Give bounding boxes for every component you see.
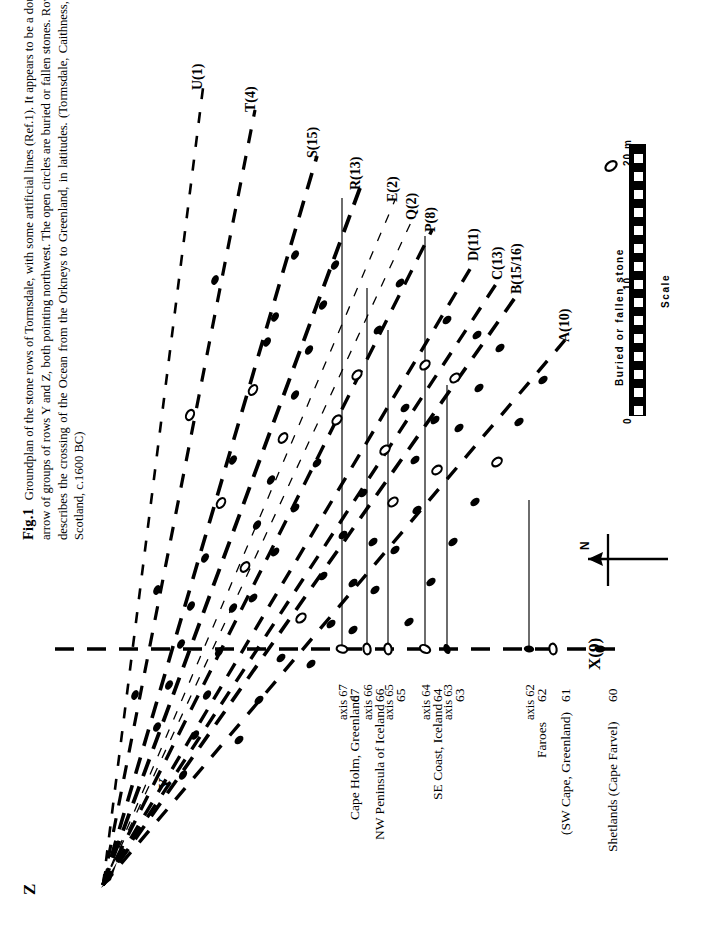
row-lines (103, 88, 565, 885)
figure-caption-text: Groundplan of the stone rows of Tormsdal… (22, 0, 86, 540)
latitude-site-62: Faroes (534, 722, 550, 758)
row-label-T: T(4) (243, 86, 259, 112)
group-label-Y: Y (155, 778, 175, 790)
group-label-Z: Z (20, 884, 40, 895)
row-label-E: E(2) (385, 176, 401, 202)
latitude-site-61: (SW Cape, Greenland) (558, 712, 574, 835)
latitude-site-66: NW Peninsula of Iceland (372, 704, 388, 840)
row-label-R: R(13) (348, 157, 364, 190)
groundplan-drawing: U(1) T(4) S(15) R(13) E(2) Q(2) P(8) D(1… (95, 30, 615, 920)
row-label-C: C(13) (490, 247, 506, 280)
row-label-Q: Q(2) (404, 193, 420, 220)
latitude-number-64: 64 (430, 689, 446, 703)
scale-title: Scale (660, 274, 671, 308)
scale-value-start: 0 (622, 417, 633, 424)
row-label-S: S(15) (305, 127, 321, 158)
latitude-site-64: SE Coast, Iceland (430, 704, 446, 800)
stone-markers (130, 249, 550, 944)
latitude-number-62: 62 (534, 689, 550, 703)
row-label-A: A(10) (557, 309, 573, 342)
compass-icon (572, 528, 682, 608)
latitude-number-65: 65 (393, 689, 409, 703)
figure-number: Fig.1 (20, 500, 36, 540)
row-label-B: B(15/16) (509, 243, 525, 294)
latitude-number-60: 60 (605, 689, 621, 703)
latitude-site-60: Shetlands (Cape Farvel) (605, 722, 621, 852)
compass-rose: N (572, 528, 682, 608)
row-label-P: P(8) (423, 207, 439, 232)
row-label-U: U(1) (190, 64, 206, 90)
buried-stone-symbol-icon (600, 156, 622, 176)
figure-page: Fig.1Groundplan of the stone rows of Tor… (0, 0, 713, 944)
scale-value-end: 20 m (622, 139, 633, 166)
latitude-number-66: 66 (372, 689, 388, 703)
latitude-number-63: 63 (452, 689, 468, 703)
row-label-D: D(11) (466, 228, 482, 261)
scale-legend-text: Buried or fallen stone (614, 248, 625, 386)
latitude-site-67: Cape Holm, Greenland (347, 695, 363, 820)
latitude-number-61: 61 (558, 689, 574, 703)
scale-panel: 0 10 20 m Scale Buried or fallen stone (598, 118, 708, 438)
compass-north-label: N (578, 541, 592, 550)
group-label-X: X(9) (585, 638, 605, 670)
